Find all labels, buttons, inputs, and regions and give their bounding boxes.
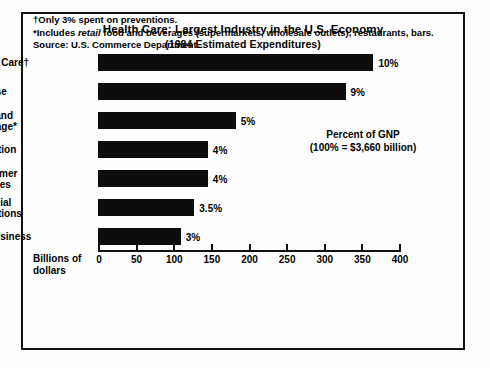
axis-tick (136, 244, 138, 250)
axis-tick-label: 50 (131, 254, 142, 265)
x-axis-title: Billions of dollars (33, 253, 81, 276)
annotation-line-2: (100% = $3,660 billion) (268, 141, 458, 154)
bar-row: Food and Beverage*5% (23, 112, 463, 129)
axis-tick (361, 244, 363, 250)
chart-frame: Health Care: Largest Industry in the U.S… (21, 12, 465, 350)
footnote-asterisk: *Includes retail food and beverages (sup… (33, 27, 455, 40)
axis-tick-label: 0 (96, 254, 102, 265)
bar-value-label: 4% (213, 144, 227, 155)
axis-tick-label: 200 (241, 254, 258, 265)
bar-value-label: 4% (213, 173, 227, 184)
axis-tick (211, 244, 213, 250)
bar (98, 112, 236, 129)
bar-row: Defense9% (23, 83, 463, 100)
bar-row: Health Care†10% (23, 54, 463, 71)
axis-tick (399, 244, 401, 250)
bar (98, 141, 208, 158)
axis-tick-label: 350 (354, 254, 371, 265)
footnote-asterisk-after: food and beverages (supermarkets, wholes… (101, 27, 434, 38)
bar-value-label: 9% (351, 86, 365, 97)
footnotes: †Only 3% spent on preventions. *Includes… (33, 14, 455, 52)
category-label: Food and Beverage* (0, 109, 98, 132)
axis-tick-label: 250 (279, 254, 296, 265)
axis-tick-label: 100 (166, 254, 183, 265)
footnote-source: Source: U.S. Commerce Department. (33, 39, 455, 52)
bar-value-label: 5% (241, 115, 255, 126)
bar (98, 170, 208, 187)
axis-tick-label: 300 (316, 254, 333, 265)
bar-row: Agribusiness3% (23, 228, 463, 245)
axis-tick (324, 244, 326, 250)
footnote-dagger: †Only 3% spent on preventions. (33, 14, 455, 27)
axis-tick (173, 244, 175, 250)
axis-tick-label: 400 (392, 254, 409, 265)
bar (98, 199, 194, 216)
annotation-line-1: Percent of GNP (268, 128, 458, 141)
bar-value-label: 10% (378, 57, 398, 68)
axis-tick (249, 244, 251, 250)
category-label: Defense (0, 86, 98, 98)
gnp-annotation: Percent of GNP (100% = $3,660 billion) (268, 128, 458, 154)
axis-line (98, 250, 401, 252)
category-label: Financial Institutions (0, 196, 98, 219)
axis-tick (98, 244, 100, 250)
category-label: Consumer Durables (0, 167, 98, 190)
bar-row: Financial Institutions3.5% (23, 199, 463, 216)
bar-value-label: 3% (186, 231, 200, 242)
chart-figure: Health Care: Largest Industry in the U.S… (0, 0, 490, 368)
footnote-dagger-text: Only 3% spent on preventions. (38, 14, 177, 25)
category-label: Education (0, 144, 98, 156)
bar-row: Consumer Durables4% (23, 170, 463, 187)
bar (98, 54, 373, 71)
bar (98, 228, 181, 245)
bar-value-label: 3.5% (199, 202, 222, 213)
bar (98, 83, 346, 100)
axis-tick (286, 244, 288, 250)
plot-area: Health Care†10%Defense9%Food and Beverag… (23, 14, 463, 348)
category-label: Agribusiness (0, 231, 98, 243)
category-label: Health Care† (0, 57, 98, 69)
footnote-asterisk-italic: retail (78, 27, 101, 38)
axis-tick-label: 150 (204, 254, 221, 265)
footnote-asterisk-before: Includes (37, 27, 78, 38)
